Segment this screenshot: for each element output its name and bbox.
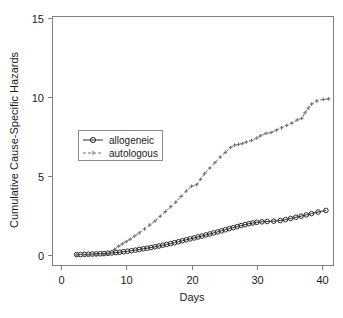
legend-item-label: autologous: [109, 148, 158, 159]
x-tick-label: 10: [120, 274, 132, 286]
chart-background: [0, 0, 343, 318]
chart-legend: allogeneicautologous: [79, 131, 163, 161]
y-tick-label: 10: [32, 92, 44, 104]
x-axis-title: Days: [179, 291, 205, 303]
y-axis-title: Cumulative Cause-Specific Hazards: [8, 51, 20, 228]
legend-item-label: allogeneic: [109, 135, 154, 146]
chart-svg: 051015 010203040 allogeneicautologous Da…: [0, 0, 343, 318]
x-tick-label: 0: [58, 274, 64, 286]
cumulative-hazards-chart: 051015 010203040 allogeneicautologous Da…: [0, 0, 343, 318]
x-tick-label: 20: [186, 274, 198, 286]
x-tick-label: 40: [316, 274, 328, 286]
x-tick-label: 30: [251, 274, 263, 286]
y-tick-label: 5: [38, 171, 44, 183]
y-tick-label: 15: [32, 13, 44, 25]
y-tick-label: 0: [38, 250, 44, 262]
